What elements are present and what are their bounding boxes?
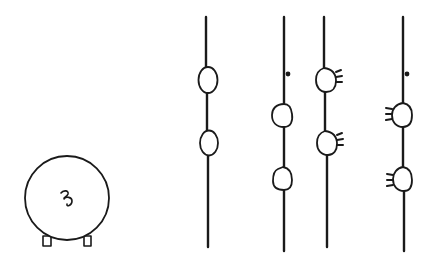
swelling xyxy=(393,167,412,191)
swelling xyxy=(199,67,218,93)
comb-projection-icon xyxy=(336,70,342,82)
strand-4 xyxy=(386,17,412,251)
strand-1 xyxy=(199,17,219,247)
small-dot xyxy=(286,72,291,77)
right-foot xyxy=(84,236,91,246)
swelling xyxy=(392,103,412,127)
strand-3 xyxy=(316,17,343,247)
left-foot xyxy=(43,236,51,246)
round-body xyxy=(25,156,109,246)
diagram-canvas xyxy=(0,0,432,266)
swelling xyxy=(317,131,337,155)
comb-projection-icon xyxy=(386,108,392,120)
swelling xyxy=(200,131,218,156)
swelling xyxy=(316,68,336,92)
small-dot xyxy=(405,72,410,77)
swelling xyxy=(273,167,292,190)
comb-projection-icon xyxy=(337,133,343,145)
strand-2 xyxy=(272,17,292,251)
comb-projection-icon xyxy=(387,174,393,186)
swelling xyxy=(272,104,292,127)
